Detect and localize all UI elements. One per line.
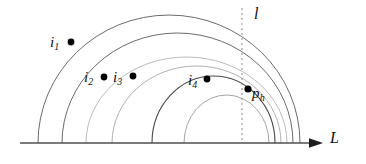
arc-1 — [38, 15, 300, 143]
label-i3: i3 — [113, 70, 122, 87]
arc-group — [38, 15, 300, 143]
arrowhead-icon — [309, 138, 323, 148]
figure-container: i1 i2 i3 i4 ph l L — [0, 0, 366, 164]
label-i2: i2 — [84, 70, 93, 87]
point-i2 — [101, 74, 108, 81]
point-i4 — [204, 76, 211, 83]
point-i1 — [68, 39, 75, 46]
point-ph — [244, 85, 251, 92]
label-line-L: L — [330, 130, 339, 146]
label-i1: i1 — [50, 35, 59, 52]
diagram-canvas — [0, 0, 366, 164]
label-i4: i4 — [188, 73, 197, 90]
point-i3 — [130, 73, 137, 80]
label-ph: ph — [252, 86, 265, 103]
label-line-l: l — [254, 6, 258, 22]
